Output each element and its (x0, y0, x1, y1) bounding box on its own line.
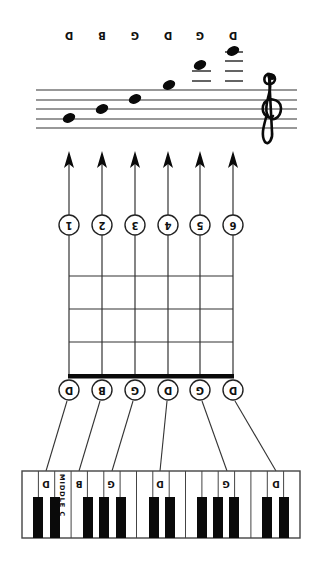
arrow-up-icon-5 (195, 151, 205, 215)
note-head-3 (127, 92, 143, 106)
arrow-up-icon-2 (97, 151, 107, 215)
music-staff (36, 90, 297, 128)
open-d-tuning-diagram: D B G D G D (0, 0, 321, 575)
connector-lines (46, 401, 276, 471)
open-string-note-4: D (164, 385, 172, 396)
arrow-up-icon-1 (64, 151, 74, 215)
staff-note-label-5: G (196, 30, 204, 41)
open-string-note-5: G (196, 385, 204, 396)
note-head-1 (61, 111, 77, 125)
string-number-5: 5 (196, 220, 203, 231)
note-heads (61, 44, 241, 125)
note-head-2 (94, 102, 110, 116)
fretboard (68, 235, 234, 379)
key-label-d-1: D (42, 479, 49, 489)
string-number-6: 6 (229, 220, 236, 231)
arrow-up-icon-4 (163, 151, 173, 215)
staff-note-label-3: G (131, 30, 139, 41)
string-number-circles: 1 2 3 4 5 6 (59, 215, 243, 235)
arrows (64, 151, 238, 215)
open-string-note-circles: D B G D G D (59, 380, 243, 400)
key-label-d-2: D (156, 479, 163, 489)
key-label-d-3: D (272, 479, 279, 489)
string-number-3: 3 (131, 220, 138, 231)
open-string-note-1: D (65, 385, 73, 396)
note-head-5 (192, 58, 208, 72)
key-label-g-2: G (222, 479, 229, 489)
staff-note-label-4: D (164, 30, 172, 41)
open-string-note-3: G (131, 385, 139, 396)
arrow-up-icon-3 (130, 151, 140, 215)
string-number-1: 1 (65, 220, 72, 231)
arrow-up-icon-6 (228, 151, 238, 215)
staff-note-label-1: D (65, 30, 73, 41)
staff-note-labels: D B G D G D (65, 30, 237, 41)
open-string-note-6: D (229, 385, 237, 396)
piano-keyboard: D B G D G D MIDDLE C (22, 471, 300, 538)
string-number-2: 2 (98, 220, 105, 231)
staff-note-label-2: B (98, 30, 106, 41)
note-head-6 (225, 44, 241, 58)
middle-c-label: MIDDLE C (58, 474, 66, 517)
open-string-note-2: B (98, 385, 106, 396)
string-number-4: 4 (164, 220, 171, 231)
nut (68, 374, 234, 379)
key-label-g-1: G (107, 479, 114, 489)
staff-note-label-6: D (229, 30, 237, 41)
key-label-b: B (75, 479, 82, 489)
